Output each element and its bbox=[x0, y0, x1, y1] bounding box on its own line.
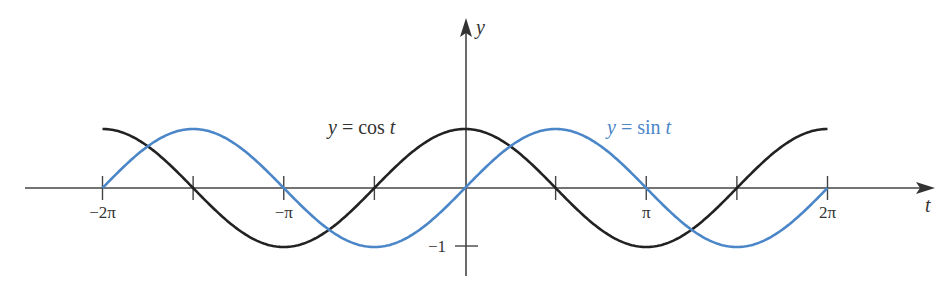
x-tick-label: π bbox=[642, 203, 651, 222]
sin-label-var: t bbox=[666, 116, 672, 138]
sin-series-label: y = sin t bbox=[605, 116, 672, 139]
x-tick-label: −π bbox=[275, 203, 294, 222]
x-axis-label: t bbox=[925, 194, 931, 216]
sin-label-y: y bbox=[605, 116, 616, 139]
series-labels: y = cos t y = sin t bbox=[326, 116, 672, 139]
sin-label-eq: = sin bbox=[616, 116, 666, 138]
y-axis-label: y bbox=[474, 16, 485, 39]
cos-label-eq: = cos bbox=[337, 116, 390, 138]
y-tick-label-minus-1: −1 bbox=[428, 237, 446, 256]
cos-label-y: y bbox=[326, 116, 337, 139]
axes: t y −1 bbox=[25, 16, 935, 276]
chart: t y −1 −2π−ππ2π y = cos t y = sin t bbox=[0, 0, 949, 290]
cos-label-var: t bbox=[390, 116, 396, 138]
x-tick-label: 2π bbox=[819, 203, 837, 222]
x-tick-label: −2π bbox=[89, 203, 116, 222]
cos-series-label: y = cos t bbox=[326, 116, 396, 139]
